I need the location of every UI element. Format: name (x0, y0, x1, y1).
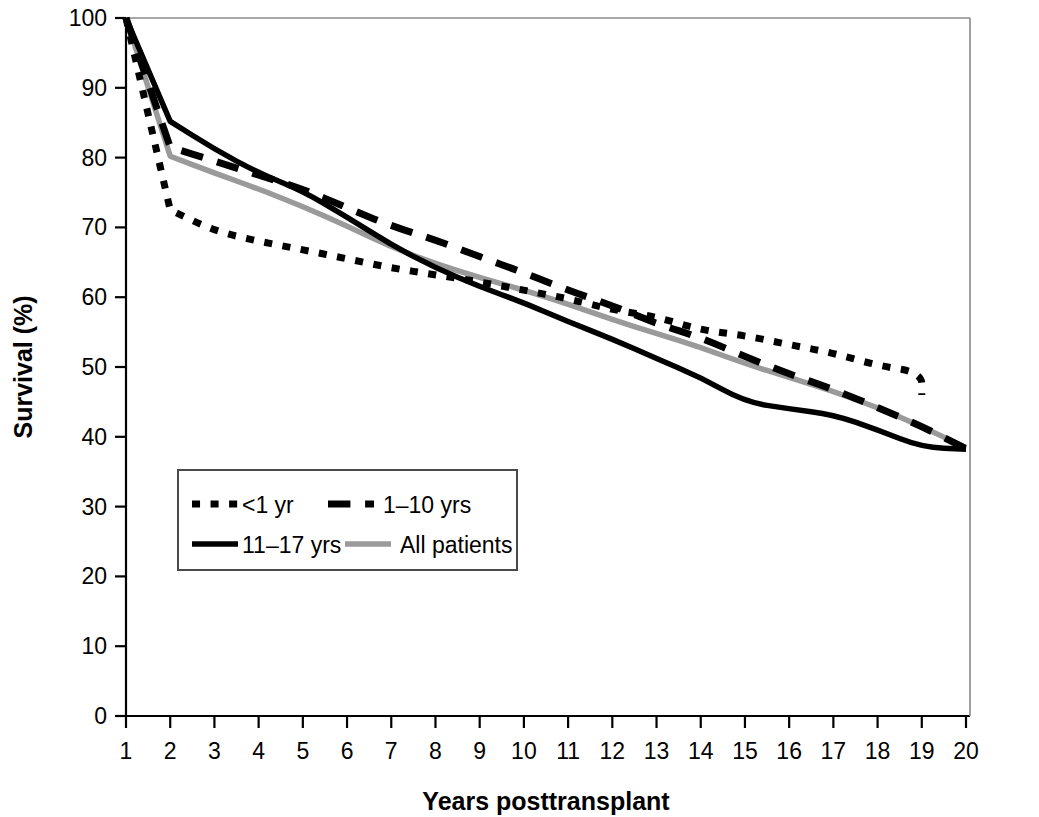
y-tick-label: 50 (81, 354, 107, 380)
x-tick-label: 6 (341, 738, 354, 764)
x-tick-label: 3 (208, 738, 221, 764)
legend-label: 1–10 yrs (383, 492, 471, 518)
y-tick-label: 80 (81, 145, 107, 171)
x-tick-label: 1 (120, 738, 133, 764)
y-tick-label: 20 (81, 563, 107, 589)
x-tick-label: 7 (385, 738, 398, 764)
y-tick-label: 30 (81, 494, 107, 520)
x-tick-label: 8 (429, 738, 442, 764)
legend-label: <1 yr (242, 492, 294, 518)
survival-chart-figure: 0102030405060708090100 12345678910111213… (0, 0, 1039, 817)
x-tick-label: 18 (865, 738, 891, 764)
series-line-1-10-yrs (126, 18, 966, 449)
x-tick-label: 14 (688, 738, 714, 764)
chart-legend: <1 yr1–10 yrs11–17 yrsAll patients (178, 470, 517, 570)
x-tick-label: 17 (821, 738, 847, 764)
data-series-group (126, 18, 966, 449)
series-line-11-17-yrs (126, 18, 966, 449)
x-tick-label: 16 (776, 738, 802, 764)
x-axis-tick-labels: 1234567891011121314151617181920 (120, 738, 979, 764)
y-tick-label: 70 (81, 214, 107, 240)
y-tick-label: 60 (81, 284, 107, 310)
x-axis-title: Years posttransplant (422, 787, 670, 815)
x-tick-label: 4 (252, 738, 265, 764)
series-line-all-patients (126, 18, 966, 448)
y-axis-title: Survival (%) (9, 295, 37, 438)
y-tick-label: 100 (69, 5, 107, 31)
x-tick-label: 2 (164, 738, 177, 764)
y-axis-tick-labels: 0102030405060708090100 (69, 5, 107, 729)
y-axis-ticks (115, 18, 126, 716)
x-tick-label: 12 (600, 738, 626, 764)
x-tick-label: 20 (953, 738, 979, 764)
y-tick-label: 40 (81, 424, 107, 450)
x-tick-label: 9 (473, 738, 486, 764)
plot-frame (126, 18, 970, 716)
legend-label: 11–17 yrs (242, 532, 341, 558)
y-tick-label: 10 (81, 633, 107, 659)
y-tick-label: 0 (94, 703, 107, 729)
x-tick-label: 10 (511, 738, 537, 764)
series-line--1-yr (126, 18, 922, 395)
x-tick-label: 13 (644, 738, 670, 764)
x-axis-ticks (126, 716, 966, 728)
x-tick-label: 15 (732, 738, 758, 764)
legend-label: All patients (400, 532, 513, 558)
x-tick-label: 19 (909, 738, 935, 764)
chart-canvas: 0102030405060708090100 12345678910111213… (0, 0, 1039, 817)
x-tick-label: 5 (296, 738, 309, 764)
y-tick-label: 90 (81, 75, 107, 101)
x-tick-label: 11 (556, 738, 580, 764)
